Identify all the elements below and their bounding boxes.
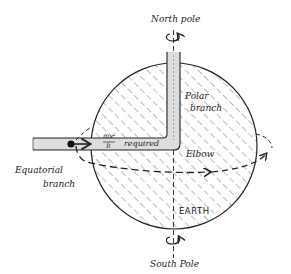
mass-dot-icon [67,140,74,147]
rotation-arrow-north-icon [166,34,179,41]
polar-branch-label-1: Polar [185,92,209,101]
earth-label: EARTH [179,207,210,216]
rotation-arrow-south-icon [166,237,179,244]
polar-branch-label-2: branch [190,104,222,113]
elbow-label: Elbow [186,150,214,159]
force-required-label: required [124,140,159,148]
diagram-drawing [0,0,291,274]
force-denominator: R [106,143,111,149]
earth-tunnel-diagram: North pole South Pole Polar branch Equat… [0,0,291,274]
equatorial-branch-label-1: Equatorial [15,166,63,175]
north-pole-label: North pole [151,15,200,24]
south-pole-label: South Pole [150,260,199,269]
force-numerator: mv² [103,133,115,140]
equatorial-branch-label-2: branch [43,180,75,189]
